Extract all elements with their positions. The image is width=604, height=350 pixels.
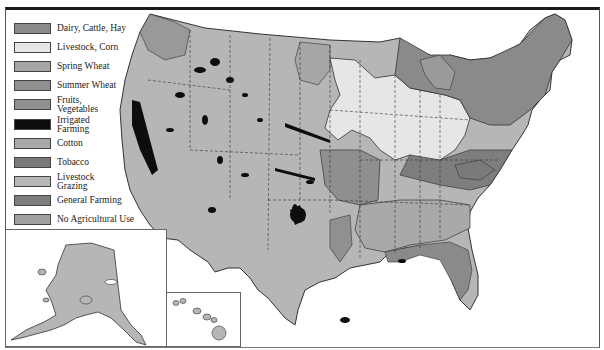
legend-label: Dairy, Cattle, Hay <box>57 24 126 33</box>
legend-label: Livestock, Corn <box>57 43 118 52</box>
legend-swatch <box>14 176 51 187</box>
legend-swatch <box>14 157 51 168</box>
legend-swatch <box>14 61 51 72</box>
legend-label: Cotton <box>57 139 83 148</box>
legend-item-general-farming: General Farming <box>14 192 122 209</box>
legend-label: Spring Wheat <box>57 62 109 71</box>
hawaii-map <box>167 293 242 348</box>
legend-swatch <box>14 80 51 91</box>
gulf-coast-region <box>385 242 472 300</box>
legend-item-summer-wheat: Summer Wheat <box>14 77 116 94</box>
legend-item-fruits-vegetables: Fruits, Vegetables <box>14 96 98 113</box>
legend-swatch <box>14 99 51 110</box>
legend-swatch <box>14 119 51 130</box>
legend-label: Irrigated Farming <box>57 116 90 134</box>
legend-swatch <box>14 23 51 34</box>
legend-swatch <box>14 138 51 149</box>
legend-item-spring-wheat: Spring Wheat <box>14 58 109 75</box>
legend-item-livestock-grazing: Livestock Grazing <box>14 173 94 190</box>
hawaii-inset <box>166 292 241 347</box>
alaska-map <box>6 230 168 348</box>
legend-label: No Agricultural Use <box>57 215 134 224</box>
alaska-inset <box>5 229 167 347</box>
legend-item-irrigated-farming: Irrigated Farming <box>14 116 90 133</box>
legend-item-livestock-corn: Livestock, Corn <box>14 39 118 56</box>
legend-label: General Farming <box>57 196 122 205</box>
legend-label: Livestock Grazing <box>57 173 94 191</box>
legend-swatch <box>14 195 51 206</box>
legend-item-dairy: Dairy, Cattle, Hay <box>14 20 126 37</box>
legend-item-no-agricultural-use: No Agricultural Use <box>14 211 134 228</box>
legend-label: Summer Wheat <box>57 81 116 90</box>
legend-label: Fruits, Vegetables <box>57 96 98 114</box>
legend-swatch <box>14 42 51 53</box>
legend-item-cotton: Cotton <box>14 135 83 152</box>
legend-item-tobacco: Tobacco <box>14 154 89 171</box>
legend-swatch <box>14 214 51 225</box>
legend-label: Tobacco <box>57 158 89 167</box>
